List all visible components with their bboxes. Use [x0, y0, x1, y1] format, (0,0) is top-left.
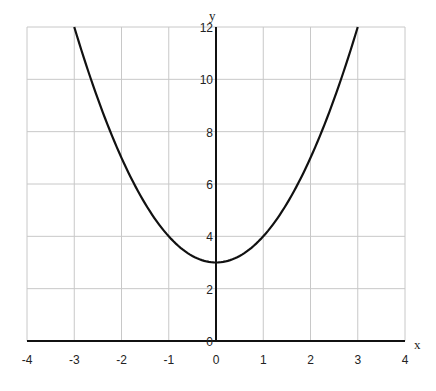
y-tick-label: 10 [200, 73, 214, 87]
x-tick-label: -2 [116, 353, 127, 367]
x-tick-label: -1 [163, 353, 174, 367]
x-tick-label: -3 [69, 353, 80, 367]
x-tick-label: -4 [22, 353, 33, 367]
y-tick-label: 2 [206, 283, 213, 297]
y-tick-label: 0 [206, 335, 213, 349]
y-axis-label: y [209, 8, 216, 23]
y-tick-label: 12 [200, 21, 214, 35]
x-tick-label: 4 [402, 353, 409, 367]
x-tick-label: 2 [307, 353, 314, 367]
x-tick-label: 1 [260, 353, 267, 367]
x-tick-label: 3 [354, 353, 361, 367]
y-tick-labels: 024681012 [200, 21, 214, 349]
y-tick-label: 6 [206, 178, 213, 192]
y-tick-label: 4 [206, 230, 213, 244]
parabola-chart: -4-3-2-101234 024681012 x y [0, 0, 436, 391]
x-tick-labels: -4-3-2-101234 [22, 353, 409, 367]
x-tick-label: 0 [213, 353, 220, 367]
y-tick-label: 8 [206, 126, 213, 140]
x-axis-label: x [414, 337, 421, 352]
